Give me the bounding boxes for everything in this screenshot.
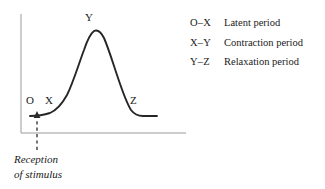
curve-point-label-z: Z [130,95,137,106]
curve-point-label-x: X [45,95,53,106]
curve-point-label-y: Y [85,12,93,23]
stimulus-caption: Reception of stimulus [14,152,62,182]
legend-description: Relaxation period [224,56,303,67]
legend-description: Contraction period [224,37,303,48]
legend-key: Y–Z [190,56,224,67]
legend-key: X–Y [190,37,224,48]
legend-row: Y–Z Relaxation period [190,56,303,67]
stimulus-caption-line-2: of stimulus [14,167,62,182]
legend-description: Latent period [224,17,303,28]
curve-point-label-o: O [26,95,34,106]
legend-row: X–Y Contraction period [190,37,303,48]
legend-key: O–X [190,17,224,28]
stimulus-caption-line-1: Reception [14,152,62,167]
legend: O–X Latent period X–Y Contraction period… [190,17,303,76]
muscle-twitch-diagram: O X Y Z Reception of stimulus O–X Latent… [0,0,325,189]
legend-row: O–X Latent period [190,17,303,28]
